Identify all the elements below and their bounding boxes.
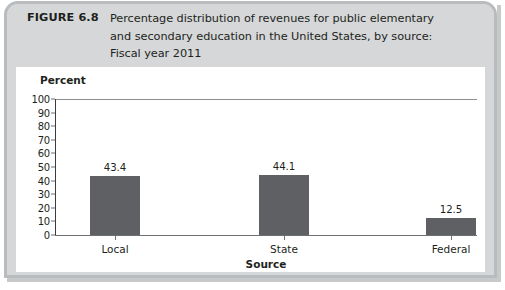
y-axis-tick-label: 0	[20, 230, 50, 241]
x-axis-tick-label: Local	[75, 243, 155, 255]
figure-frame-shadow-right	[497, 5, 501, 282]
y-axis-tick-label: 50	[20, 162, 50, 173]
y-axis-tick-mark	[51, 139, 55, 140]
bar-state	[259, 175, 309, 235]
figure-number-label: FIGURE 6.8	[27, 11, 99, 24]
y-axis-tick-mark	[51, 180, 55, 181]
y-axis-tick-mark	[51, 167, 55, 168]
caption-line-2: and secondary education in the United St…	[110, 28, 485, 46]
caption-line-3: Fiscal year 2011	[110, 45, 485, 63]
y-axis-tick-mark	[51, 221, 55, 222]
y-axis-tick-mark	[51, 194, 55, 195]
bar-federal	[426, 218, 476, 235]
figure-container: FIGURE 6.8 Percentage distribution of re…	[4, 1, 497, 278]
plot-area: 100908070605040302010043.4Local44.1State…	[16, 67, 485, 272]
bar-value-label: 44.1	[254, 161, 314, 172]
y-axis-tick-label: 30	[20, 189, 50, 200]
y-axis-tick-label: 60	[20, 148, 50, 159]
y-axis-tick-mark	[51, 235, 55, 236]
x-axis-line	[55, 235, 477, 236]
y-axis-tick-label: 90	[20, 107, 50, 118]
bar-value-label: 12.5	[421, 204, 481, 215]
y-axis-tick-label: 40	[20, 175, 50, 186]
bar-value-label: 43.4	[85, 162, 145, 173]
y-axis-tick-label: 70	[20, 134, 50, 145]
bar-local	[90, 176, 140, 235]
y-axis-tick-mark	[51, 153, 55, 154]
y-axis-tick-mark	[51, 207, 55, 208]
y-axis-tick-mark	[51, 126, 55, 127]
caption-line-1: Percentage distribution of revenues for …	[110, 10, 485, 28]
figure-caption-header: FIGURE 6.8 Percentage distribution of re…	[7, 4, 494, 67]
x-axis-tick-mark	[284, 236, 285, 240]
y-axis-tick-mark	[51, 112, 55, 113]
y-axis-tick-mark	[51, 99, 55, 100]
x-axis-title: Source	[55, 258, 477, 270]
y-axis-line	[55, 99, 56, 236]
x-axis-tick-mark	[115, 236, 116, 240]
figure-frame-shadow-bottom	[7, 278, 500, 282]
x-axis-tick-mark	[451, 236, 452, 240]
x-axis-tick-label: State	[244, 243, 324, 255]
plot-top-rule	[55, 99, 477, 100]
y-axis-tick-label: 20	[20, 202, 50, 213]
x-axis-tick-label: Federal	[411, 243, 491, 255]
y-axis-tick-label: 80	[20, 121, 50, 132]
chart-panel: Percent 100908070605040302010043.4Local4…	[16, 67, 485, 272]
y-axis-tick-label: 10	[20, 216, 50, 227]
figure-caption-text: Percentage distribution of revenues for …	[110, 10, 485, 63]
y-axis-tick-label: 100	[20, 94, 50, 105]
